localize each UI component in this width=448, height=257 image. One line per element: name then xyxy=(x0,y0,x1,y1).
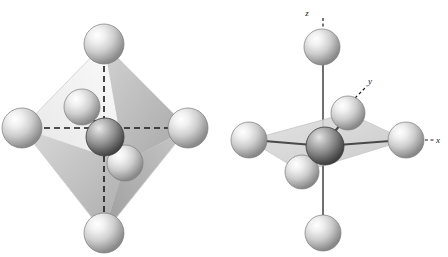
atom-spheres-group xyxy=(2,24,208,253)
panel-octahedron-axes: z y x xyxy=(224,0,448,257)
leader-y xyxy=(355,86,367,98)
atom-ligand-top[interactable] xyxy=(304,29,340,65)
octahedral-complex-figure: z y x xyxy=(0,0,448,257)
octahedron-axes-svg: z y x xyxy=(224,0,448,257)
atom-ligand-back-upper[interactable] xyxy=(331,96,365,130)
atom-ligand-top[interactable] xyxy=(84,24,124,64)
axis-label-x: x xyxy=(435,135,440,145)
atom-ligand-back-upper[interactable] xyxy=(64,89,100,125)
axis-label-z: z xyxy=(304,8,309,18)
atom-central-metal[interactable] xyxy=(306,127,344,165)
atom-ligand-left[interactable] xyxy=(231,122,267,158)
atom-ligand-right[interactable] xyxy=(388,122,424,158)
atom-ligand-bottom[interactable] xyxy=(305,215,341,251)
panel-octahedron-polyhedron xyxy=(0,0,224,257)
atom-ligand-right[interactable] xyxy=(168,108,208,148)
octahedron-polyhedron-svg xyxy=(0,0,224,257)
atom-ligand-left[interactable] xyxy=(2,108,42,148)
atom-central-metal[interactable] xyxy=(86,118,124,156)
atom-ligand-bottom[interactable] xyxy=(84,213,124,253)
axis-label-y: y xyxy=(367,76,372,86)
atom-spheres-group xyxy=(231,29,424,251)
